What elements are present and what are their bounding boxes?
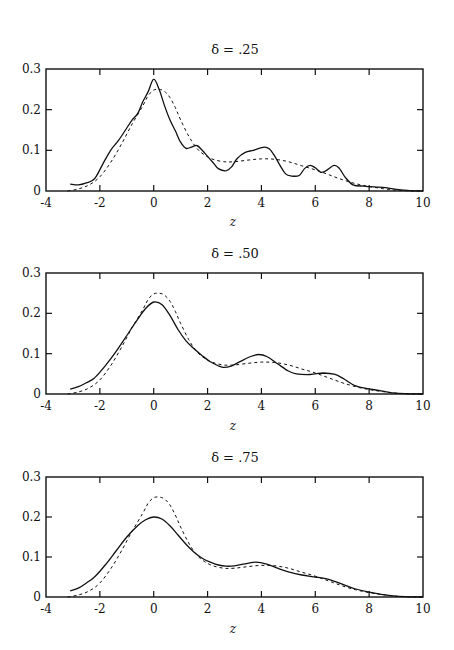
- y-tick-label: 0.2: [22, 306, 41, 320]
- plot-area: -4-2024681000.10.20.3: [22, 266, 431, 413]
- x-tick-label: 0: [150, 196, 158, 210]
- x-tick-label: 0: [150, 399, 158, 413]
- x-tick-label: 10: [415, 602, 430, 616]
- x-tick-label: 2: [204, 399, 212, 413]
- y-tick-label: 0: [33, 387, 41, 401]
- panel-delta-075: δ = .75 -4-2024681000.10.20.3 z: [22, 450, 431, 636]
- x-axis-label: z: [229, 622, 237, 636]
- plot-frame: [46, 273, 423, 394]
- panel-title: δ = .25: [211, 42, 259, 57]
- x-axis-label: z: [229, 215, 237, 229]
- plot-area: -4-2024681000.10.20.3: [22, 62, 431, 210]
- x-tick-label: 8: [365, 399, 373, 413]
- x-tick-label: -2: [94, 602, 106, 616]
- x-tick-label: 0: [150, 602, 158, 616]
- x-tick-label: 10: [415, 399, 430, 413]
- y-tick-label: 0.1: [22, 550, 41, 564]
- y-tick-label: 0.1: [22, 143, 41, 157]
- x-tick-label: 2: [204, 196, 212, 210]
- panel-delta-050: δ = .50 -4-2024681000.10.20.3 z: [22, 246, 431, 433]
- y-tick-label: 0.3: [22, 62, 41, 76]
- x-tick-label: 8: [365, 602, 373, 616]
- figure-canvas: δ = .25 -4-2024681000.10.20.3 z δ = .50 …: [0, 0, 454, 650]
- plot-area: -4-2024681000.10.20.3: [22, 470, 431, 616]
- figure: δ = .25 -4-2024681000.10.20.3 z δ = .50 …: [0, 0, 454, 650]
- x-tick-label: 4: [258, 196, 266, 210]
- x-tick-label: 10: [415, 196, 430, 210]
- y-tick-label: 0: [33, 184, 41, 198]
- panel-title: δ = .75: [211, 450, 259, 465]
- panel-delta-025: δ = .25 -4-2024681000.10.20.3 z: [22, 42, 431, 229]
- y-tick-label: 0.2: [22, 510, 41, 524]
- reference-curve: [68, 497, 424, 597]
- x-tick-label: 6: [311, 399, 319, 413]
- x-tick-label: -4: [40, 196, 52, 210]
- x-tick-label: 8: [365, 196, 373, 210]
- y-tick-label: 0.3: [22, 470, 41, 484]
- y-tick-label: 0.1: [22, 347, 41, 361]
- x-tick-label: -2: [94, 196, 106, 210]
- estimate-curve: [70, 517, 423, 597]
- y-tick-label: 0.2: [22, 103, 41, 117]
- y-tick-label: 0: [33, 590, 41, 604]
- x-tick-label: 6: [311, 196, 319, 210]
- x-tick-label: 2: [204, 602, 212, 616]
- y-tick-label: 0.3: [22, 266, 41, 280]
- plot-frame: [46, 69, 423, 191]
- x-tick-label: -2: [94, 399, 106, 413]
- x-tick-label: 4: [258, 602, 266, 616]
- x-tick-label: -4: [40, 399, 52, 413]
- x-tick-label: 6: [311, 602, 319, 616]
- estimate-curve: [70, 79, 423, 191]
- reference-curve: [68, 89, 424, 191]
- x-tick-label: 4: [258, 399, 266, 413]
- plot-frame: [46, 477, 423, 597]
- panel-title: δ = .50: [211, 246, 259, 261]
- x-axis-label: z: [229, 419, 237, 433]
- estimate-curve: [70, 302, 423, 394]
- x-tick-label: -4: [40, 602, 52, 616]
